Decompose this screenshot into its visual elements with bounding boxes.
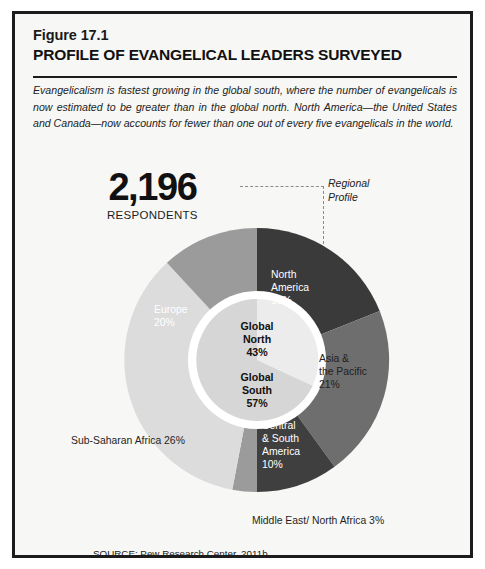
label-global-south-line2: South (242, 384, 272, 396)
label-north-america-line3: 19% (271, 295, 292, 306)
label-central-south-america-line3: America (262, 446, 300, 457)
label-global-south-line1: Global (241, 371, 274, 383)
label-asia-pacific-line1: Asia & (319, 353, 349, 364)
header-divider (33, 76, 457, 78)
callout-regional-profile: Regional Profile (328, 177, 369, 204)
figure-panel: Figure 17.1 PROFILE OF EVANGELICAL LEADE… (12, 11, 473, 558)
label-global-south-line3: 57% (246, 397, 268, 409)
respondents-count: 2,196 (107, 167, 198, 207)
figure-title: PROFILE OF EVANGELICAL LEADERS SURVEYED (33, 45, 453, 65)
figure-header: Figure 17.1 PROFILE OF EVANGELICAL LEADE… (33, 26, 453, 65)
label-europe-line2: 20% (154, 317, 175, 328)
respondents-caption: RESPONDENTS (107, 208, 198, 222)
label-sub-saharan-africa: Sub-Saharan Africa 26% (53, 434, 203, 448)
label-global-north-line2: North (243, 333, 271, 345)
figure-source: SOURCE: Pew Research Center, 2011b. (93, 548, 270, 558)
figure-number: Figure 17.1 (33, 26, 453, 44)
label-asia-pacific-line2: the Pacific (319, 366, 367, 377)
label-global-north-line1: Global (241, 320, 274, 332)
label-north-america-line2: America (271, 282, 309, 293)
donut-chart: North America 19% Asia & the Pacific 21%… (123, 226, 391, 494)
callout-line-1: Regional (328, 177, 369, 191)
label-central-south-america-line1: Central (262, 420, 296, 431)
respondents-block: 2,196 RESPONDENTS (107, 167, 198, 222)
label-north-america-line1: North (271, 269, 297, 280)
callout-leader-line-horizontal (240, 186, 324, 187)
label-central-south-america-line4: 10% (262, 459, 283, 470)
label-global-north-line3: 43% (246, 346, 268, 358)
label-europe-line1: Europe (154, 304, 188, 315)
callout-line-2: Profile (328, 191, 369, 205)
donut-chart-svg: North America 19% Asia & the Pacific 21%… (123, 226, 391, 494)
figure-description: Evangelicalism is fastest growing in the… (33, 82, 457, 132)
label-middle-east-north-africa: Middle East/ North Africa 3% (243, 514, 393, 528)
label-central-south-america-line2: & South (262, 433, 299, 444)
label-asia-pacific-line3: 21% (319, 379, 340, 390)
